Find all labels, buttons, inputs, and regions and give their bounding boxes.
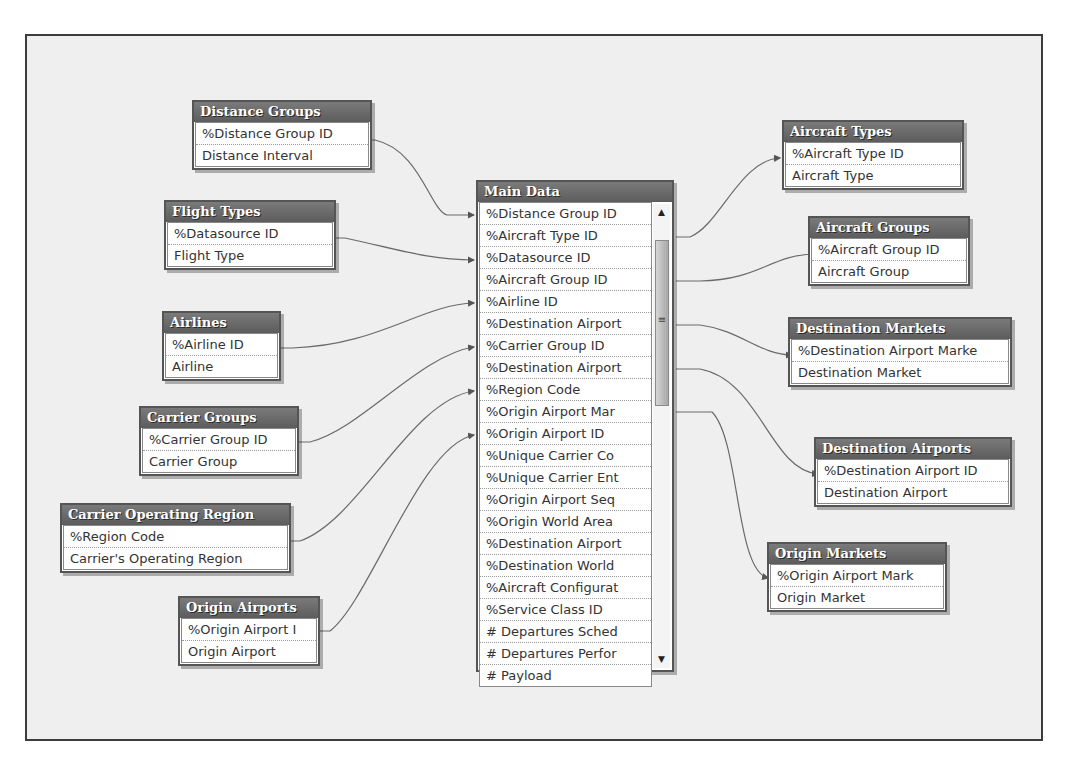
field-row[interactable]: %Carrier Group ID [480,334,651,356]
field-row[interactable]: %Aircraft Configurat [480,576,651,598]
table-title[interactable]: Origin Airports [180,598,318,618]
table-title[interactable]: Carrier Groups [141,408,297,428]
field-row[interactable]: %Origin Airport Mark [771,565,943,586]
field-row[interactable]: %Origin Airport Mar [480,400,651,422]
table-title[interactable]: Distance Groups [194,102,370,122]
scroll-up-arrow-icon[interactable]: ▲ [653,204,670,221]
table-title[interactable]: Destination Airports [816,439,1010,459]
field-row[interactable]: # Departures Perfor [480,642,651,664]
field-row[interactable]: Distance Interval [196,144,368,166]
field-row[interactable]: %Aircraft Type ID [786,143,960,164]
table-carrier-operating-region[interactable]: Carrier Operating Region %Region Code Ca… [60,503,291,573]
field-row[interactable]: %Distance Group ID [196,123,368,144]
field-row[interactable]: Carrier's Operating Region [64,547,287,569]
table-aircraft-types[interactable]: Aircraft Types %Aircraft Type ID Aircraf… [782,120,964,190]
field-row[interactable]: Airline [166,355,277,377]
field-row[interactable]: %Destination Airport [480,532,651,554]
table-title[interactable]: Carrier Operating Region [62,505,289,525]
scrollbar-thumb[interactable]: ≡ [655,240,669,406]
table-title[interactable]: Destination Markets [790,319,1010,339]
field-row[interactable]: %Destination Airport [480,312,651,334]
field-row[interactable]: %Destination Airport ID [818,460,1008,481]
table-title[interactable]: Airlines [164,313,279,333]
field-row[interactable]: Destination Airport [818,481,1008,503]
table-title[interactable]: Aircraft Groups [810,218,968,238]
field-row[interactable]: %Aircraft Type ID [480,224,651,246]
table-flight-types[interactable]: Flight Types %Datasource ID Flight Type [164,200,336,270]
field-row[interactable]: # Departures Sched [480,620,651,642]
table-title[interactable]: Origin Markets [769,544,945,564]
field-row[interactable]: Carrier Group [143,450,295,472]
field-row[interactable]: %Distance Group ID [480,203,651,224]
table-aircraft-groups[interactable]: Aircraft Groups %Aircraft Group ID Aircr… [808,216,970,286]
field-row[interactable]: Destination Market [792,361,1008,383]
field-row[interactable]: %Unique Carrier Co [480,444,651,466]
field-row[interactable]: %Datasource ID [168,223,332,244]
field-row[interactable]: %Datasource ID [480,246,651,268]
table-title[interactable]: Main Data [478,182,672,202]
field-row[interactable]: Origin Airport [182,640,316,662]
field-row[interactable]: Flight Type [168,244,332,266]
table-title[interactable]: Flight Types [166,202,334,222]
field-row[interactable]: %Unique Carrier Ent [480,466,651,488]
table-destination-markets[interactable]: Destination Markets %Destination Airport… [788,317,1012,387]
vertical-scrollbar[interactable]: ▲ ≡ ▼ [653,204,670,668]
field-row[interactable]: %Destination World [480,554,651,576]
scroll-down-arrow-icon[interactable]: ▼ [653,651,670,668]
table-origin-markets[interactable]: Origin Markets %Origin Airport Mark Orig… [767,542,947,612]
field-row[interactable]: %Destination Airport [480,356,651,378]
field-row[interactable]: Origin Market [771,586,943,608]
table-title[interactable]: Aircraft Types [784,122,962,142]
field-row[interactable]: Aircraft Type [786,164,960,186]
table-origin-airports[interactable]: Origin Airports %Origin Airport I Origin… [178,596,320,666]
field-row[interactable]: %Origin Airport Seq [480,488,651,510]
table-main-data[interactable]: Main Data %Distance Group ID %Aircraft T… [476,180,674,672]
field-row[interactable]: %Origin World Area [480,510,651,532]
field-row[interactable]: %Service Class ID [480,598,651,620]
main-data-field-list[interactable]: %Distance Group ID %Aircraft Type ID %Da… [479,202,652,687]
field-row[interactable]: # Payload [480,664,651,686]
field-row[interactable]: %Airline ID [166,334,277,355]
field-row[interactable]: %Origin Airport I [182,619,316,640]
table-airlines[interactable]: Airlines %Airline ID Airline [162,311,281,381]
field-row[interactable]: %Region Code [64,526,287,547]
field-row[interactable]: %Destination Airport Marke [792,340,1008,361]
field-row[interactable]: %Carrier Group ID [143,429,295,450]
table-carrier-groups[interactable]: Carrier Groups %Carrier Group ID Carrier… [139,406,299,476]
field-row[interactable]: %Aircraft Group ID [480,268,651,290]
field-row[interactable]: %Region Code [480,378,651,400]
field-row[interactable]: %Airline ID [480,290,651,312]
grip-icon: ≡ [657,315,667,325]
table-distance-groups[interactable]: Distance Groups %Distance Group ID Dista… [192,100,372,170]
field-row[interactable]: %Origin Airport ID [480,422,651,444]
field-row[interactable]: %Aircraft Group ID [812,239,966,260]
field-row[interactable]: Aircraft Group [812,260,966,282]
table-destination-airports[interactable]: Destination Airports %Destination Airpor… [814,437,1012,507]
